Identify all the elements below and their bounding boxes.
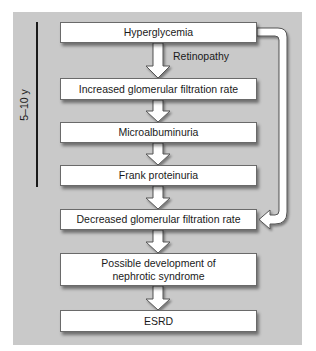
node-label: ESRD <box>144 315 173 328</box>
down-arrow-icon <box>146 186 170 209</box>
node-hyperglycemia: Hyperglycemia <box>60 22 257 43</box>
node-microalbuminuria: Microalbuminuria <box>60 122 257 143</box>
node-label: Increased glomerular filtration rate <box>79 83 238 96</box>
node-frank-proteinuria: Frank proteinuria <box>60 165 257 186</box>
down-arrow-icon <box>146 43 170 78</box>
down-arrow-icon <box>146 100 170 122</box>
node-label: Frank proteinuria <box>119 169 198 182</box>
node-decreased-gfr: Decreased glomerular filtration rate <box>60 209 257 230</box>
down-arrow-icon <box>146 143 170 165</box>
node-label: Possible development of nephrotic syndro… <box>101 257 215 283</box>
node-label-line2: nephrotic syndrome <box>101 270 215 283</box>
annotation-retinopathy: Retinopathy <box>173 50 229 62</box>
node-label: Hyperglycemia <box>124 26 193 39</box>
node-nephrotic-syndrome: Possible development of nephrotic syndro… <box>60 253 257 286</box>
down-arrow-icon <box>146 286 170 310</box>
down-arrow-icon <box>146 230 170 253</box>
bypass-arrow-icon <box>257 28 287 229</box>
node-label: Decreased glomerular filtration rate <box>77 213 241 226</box>
node-esrd: ESRD <box>60 310 257 332</box>
node-label-line1: Possible development of <box>101 257 215 270</box>
node-label: Microalbuminuria <box>119 126 199 139</box>
node-increased-gfr: Increased glomerular filtration rate <box>60 78 257 100</box>
